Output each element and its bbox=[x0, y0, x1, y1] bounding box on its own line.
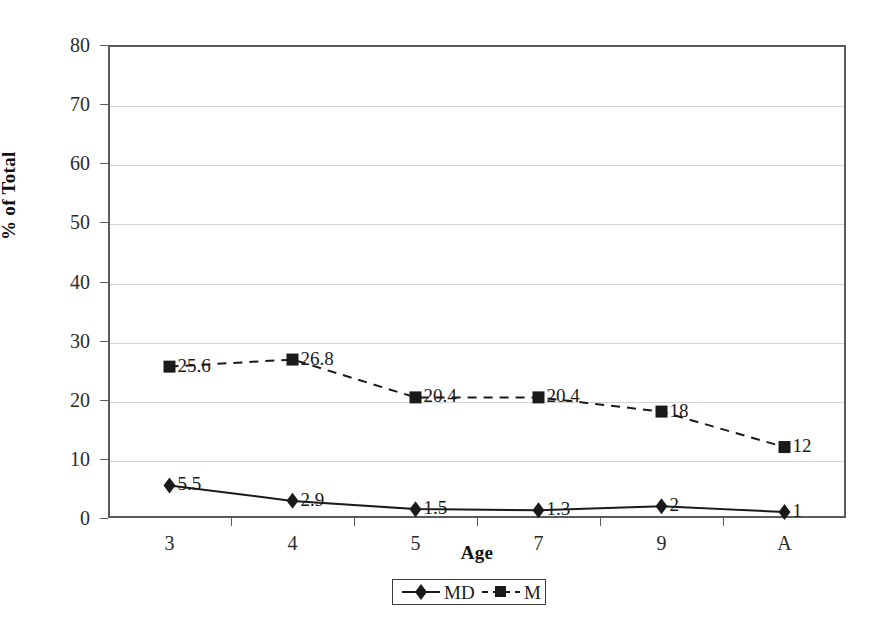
x-axis-tick bbox=[477, 518, 478, 526]
x-axis-tick bbox=[231, 518, 232, 526]
legend-square-marker-icon bbox=[481, 583, 521, 601]
gridline bbox=[110, 343, 844, 344]
gridline bbox=[110, 461, 844, 462]
data-label: 20.4 bbox=[547, 386, 580, 405]
gridline bbox=[110, 284, 844, 285]
data-label: 25.6 bbox=[178, 356, 211, 375]
data-label: 5.5 bbox=[178, 474, 202, 493]
gridline bbox=[110, 224, 844, 225]
x-axis-tick-label: A bbox=[745, 533, 825, 553]
legend-item-m[interactable]: M bbox=[481, 580, 541, 604]
legend-item-md[interactable]: MD bbox=[401, 580, 475, 604]
y-axis-tick-label: 30 bbox=[30, 331, 90, 351]
legend-label: MD bbox=[444, 583, 475, 602]
y-axis-tick bbox=[100, 45, 108, 46]
gridline bbox=[110, 402, 844, 403]
data-label: 26.8 bbox=[301, 349, 334, 368]
y-axis-tick bbox=[100, 518, 108, 519]
x-axis-tick bbox=[723, 518, 724, 526]
y-axis-tick-label: 60 bbox=[30, 153, 90, 173]
y-axis-tick bbox=[100, 163, 108, 164]
legend-diamond-marker-icon bbox=[401, 583, 441, 601]
data-label: 20.4 bbox=[424, 386, 457, 405]
y-axis-tick-label: 80 bbox=[30, 35, 90, 55]
line-chart: % of Total 0102030405060708034579A 5.52.… bbox=[0, 0, 886, 637]
y-axis-tick-label: 40 bbox=[30, 272, 90, 292]
gridline bbox=[110, 106, 844, 107]
y-axis-tick-label: 20 bbox=[30, 390, 90, 410]
x-axis-tick bbox=[354, 518, 355, 526]
y-axis-tick bbox=[100, 104, 108, 105]
y-axis-title: % of Total bbox=[0, 151, 20, 240]
chart-legend[interactable]: MDM bbox=[392, 579, 546, 605]
x-axis-title: Age bbox=[397, 542, 557, 564]
y-axis-tick-label: 0 bbox=[30, 508, 90, 528]
data-label: 2 bbox=[670, 495, 680, 514]
gridline bbox=[110, 165, 844, 166]
data-label: 1.5 bbox=[424, 498, 448, 517]
x-axis-tick-label: 4 bbox=[253, 533, 333, 553]
x-axis-tick-label: 3 bbox=[130, 533, 210, 553]
y-axis-tick bbox=[100, 282, 108, 283]
data-label: 12 bbox=[793, 436, 812, 455]
y-axis-tick-label: 10 bbox=[30, 449, 90, 469]
data-label: 1.3 bbox=[547, 499, 571, 518]
plot-area bbox=[108, 45, 846, 518]
y-axis-tick bbox=[100, 400, 108, 401]
data-label: 2.9 bbox=[301, 490, 325, 509]
y-axis-tick bbox=[100, 222, 108, 223]
x-axis-tick bbox=[600, 518, 601, 526]
y-axis-tick bbox=[100, 341, 108, 342]
x-axis-tick-label: 9 bbox=[622, 533, 702, 553]
data-label: 18 bbox=[670, 401, 689, 420]
legend-label: M bbox=[524, 583, 541, 602]
y-axis-tick-label: 70 bbox=[30, 94, 90, 114]
y-axis-tick-label: 50 bbox=[30, 212, 90, 232]
data-label: 1 bbox=[793, 501, 803, 520]
y-axis-tick bbox=[100, 459, 108, 460]
